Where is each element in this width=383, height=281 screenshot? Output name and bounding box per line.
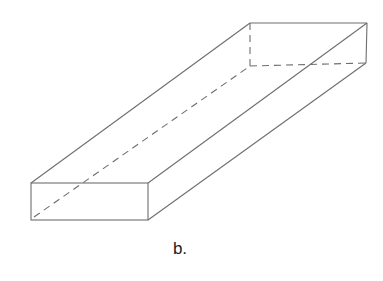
figure-caption: b. [150, 239, 210, 259]
prism-figure: b. [0, 0, 383, 281]
top-right-edge [148, 23, 367, 183]
back-right-edge [366, 23, 367, 63]
front-face [31, 183, 148, 220]
hidden-bottom-left-edge [34, 66, 250, 217]
top-left-edge [31, 23, 250, 183]
bottom-right-edge [148, 63, 366, 220]
